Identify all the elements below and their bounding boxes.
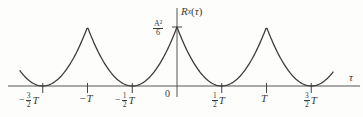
x-tick-label-minus-T: −T (79, 93, 93, 104)
T-symbol: T (219, 95, 225, 106)
T-symbol: T (128, 95, 134, 106)
peak-value-label: A² 6 (153, 20, 164, 38)
y-axis-label-paren-close: ) (199, 6, 203, 17)
fraction-1-2: 1 2 (122, 92, 128, 109)
x-tick-label-1-2T: 1 2 T (212, 92, 225, 109)
T-symbol: T (311, 95, 317, 106)
autocorrelation-figure: Rx(τ) A² 6 0 τ − 3 2 T −T − 1 2 T 1 2 T (0, 0, 363, 117)
peak-value-fraction: A² 6 (153, 20, 163, 38)
fraction-3-2: 3 2 (26, 92, 32, 109)
fraction-1-2: 1 2 (212, 92, 218, 109)
minus-sign: − (19, 95, 25, 105)
y-axis-label: Rx(τ) (181, 6, 202, 17)
x-axis-label: τ (349, 72, 353, 83)
y-axis-label-R: R (181, 6, 188, 17)
x-tick-label-minus-3-2T: − 3 2 T (19, 92, 39, 109)
minus-sign: − (115, 95, 121, 105)
x-tick-label-T: T (261, 93, 267, 104)
fraction-3-2: 3 2 (304, 92, 310, 109)
x-tick-label-3-2T: 3 2 T (304, 92, 317, 109)
T-symbol: T (32, 95, 38, 106)
x-tick-label-minus-1-2T: − 1 2 T (115, 92, 135, 109)
origin-label: 0 (165, 89, 170, 99)
peak-fraction-denominator: 6 (155, 29, 161, 37)
